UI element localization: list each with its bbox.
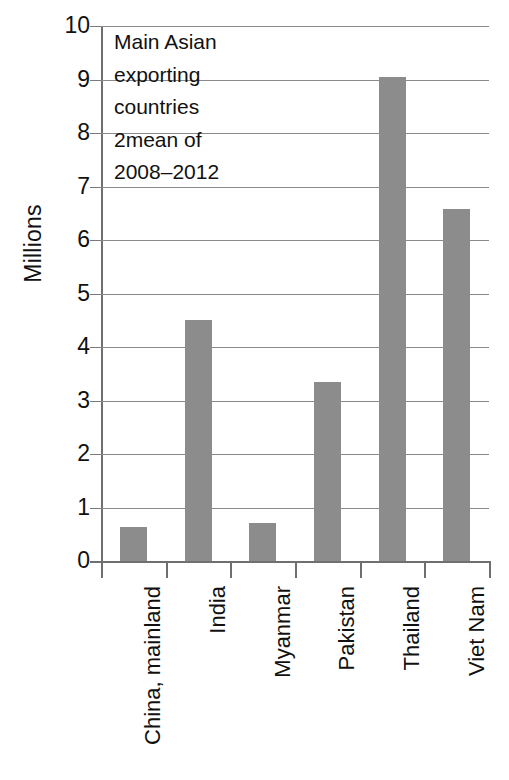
y-tick-mark [90,508,101,509]
gridline [101,454,489,455]
y-tick-label: 3 [16,389,90,412]
gridline [101,240,489,241]
bar [120,527,147,561]
y-tick-mark [90,80,101,81]
x-tick-mark [424,561,426,578]
annotation-line: 2mean of [114,124,294,157]
x-tick-mark [166,561,168,578]
bar-chart: Millions 109876543210 China, mainlandInd… [0,0,509,780]
y-tick-mark [90,454,101,455]
annotation-line: exporting [114,59,294,92]
y-tick-label: 10 [16,14,90,37]
chart-annotation: Main Asianexportingcountries2mean of2008… [114,26,294,189]
y-tick-mark [90,294,101,295]
x-axis-label: Viet Nam [466,586,488,676]
x-tick-mark [489,561,491,578]
gridline [101,508,489,509]
x-axis-label: Pakistan [336,586,358,670]
y-tick-label: 0 [16,549,90,572]
bar [185,320,212,561]
y-tick-mark [90,240,101,241]
gridline [101,294,489,295]
y-tick-label: 4 [16,335,90,358]
y-tick-label: 7 [16,175,90,198]
y-tick-mark [90,401,101,402]
gridline [101,347,489,348]
x-tick-mark [295,561,297,578]
y-tick-mark [90,26,101,27]
bar [379,77,406,561]
y-tick-label: 2 [16,442,90,465]
annotation-line: countries [114,91,294,124]
y-tick-label: 5 [16,282,90,305]
y-tick-mark [90,561,101,563]
y-tick-mark [90,133,101,134]
x-axis-label: Myanmar [272,586,294,678]
y-tick-mark [90,187,101,188]
y-tick-label: 1 [16,496,90,519]
x-tick-mark [230,561,232,578]
bar [249,523,276,561]
y-tick-label: 6 [16,228,90,251]
bar [443,209,470,561]
annotation-line: 2008–2012 [114,156,294,189]
y-tick-label: 9 [16,68,90,91]
x-axis-label: Thailand [401,586,423,670]
x-tick-mark [360,561,362,578]
x-axis-label: India [207,586,229,634]
y-tick-label: 8 [16,121,90,144]
bar [314,382,341,561]
annotation-line: Main Asian [114,26,294,59]
gridline [101,401,489,402]
y-tick-mark [90,347,101,348]
x-tick-mark [101,561,103,578]
x-axis-label: China, mainland [142,586,164,745]
